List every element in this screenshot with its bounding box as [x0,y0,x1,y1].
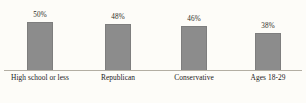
bar-rect[interactable] [255,33,281,71]
bar-group: 48% [78,0,158,71]
category-label: Republican [101,72,135,83]
bar-rect[interactable] [27,22,53,71]
category-axis-labels: High school or less Republican Conservat… [0,72,306,86]
x-axis-line [4,70,302,71]
category-label: Conservative [174,72,214,83]
bar-rect[interactable] [181,26,207,71]
bar-value-label: 50% [33,11,46,20]
category-label: High school or less [11,72,69,83]
bar-group: 46% [154,0,234,71]
bar-group: 38% [228,0,306,71]
plot-area: 50% 48% 46% 38% [0,0,306,71]
bar-value-label: 48% [111,13,124,22]
bar-value-label: 46% [187,15,200,24]
bar-rect[interactable] [105,24,131,71]
category-label: Ages 18-29 [251,72,286,83]
bar-chart: 50% 48% 46% 38% High school or less Repu… [0,0,306,103]
bar-group: 50% [0,0,80,71]
bar-value-label: 38% [261,22,274,31]
